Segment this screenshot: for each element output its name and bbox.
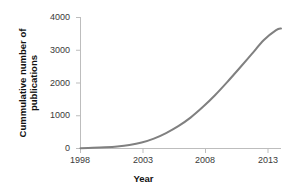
x-tick-label-2008: 2008 [188,155,222,165]
y-tick-label-1000: 1000 [40,110,70,120]
publications-growth-chart: 4000 3000 2000 1000 0 1998 2003 2008 201… [0,0,287,193]
y-tick-label-4000: 4000 [40,12,70,22]
y-axis-title-line2: publications [28,55,39,111]
x-axis-title: Year [0,173,287,184]
y-tick-label-2000: 2000 [40,78,70,88]
y-tick-label-3000: 3000 [40,45,70,55]
y-axis-title: Cummulative number of publications [17,8,39,158]
x-tick-marks [81,149,269,154]
x-tick-label-2003: 2003 [126,155,160,165]
y-tick-marks [76,18,81,149]
x-tick-label-2013: 2013 [251,155,285,165]
y-axis-title-line1: Cummulative number of [17,29,28,138]
y-tick-label-0: 0 [40,143,70,153]
publications-curve [81,29,282,149]
x-tick-label-1998: 1998 [63,155,97,165]
